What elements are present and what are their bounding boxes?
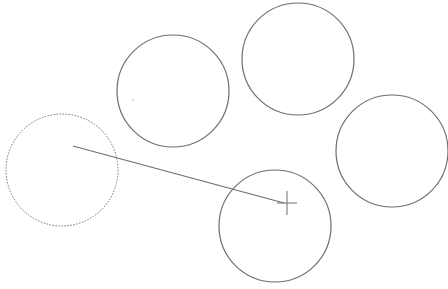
drawing-canvas[interactable] bbox=[0, 0, 448, 289]
canvas-background bbox=[0, 0, 448, 289]
stray-dot bbox=[132, 99, 133, 100]
